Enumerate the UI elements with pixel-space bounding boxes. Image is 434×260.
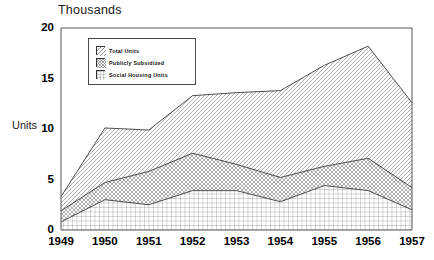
legend-item-total-units[interactable]: Total Units — [96, 45, 139, 56]
legend-item-publicly-subsidized[interactable]: Publicly Subsidized — [96, 57, 164, 68]
legend-item-social-housing-units[interactable]: Social Housing Units — [96, 69, 168, 80]
legend-label-total-units: Total Units — [109, 48, 139, 54]
legend-swatch-publicly-subsidized — [96, 58, 105, 67]
legend-swatch-total-units — [96, 46, 105, 55]
x-tick-1956: 1956 — [355, 236, 381, 248]
legend-label-publicly-subsidized: Publicly Subsidized — [109, 60, 164, 66]
x-tick-1957: 1957 — [399, 236, 425, 248]
legend-label-social-housing-units: Social Housing Units — [109, 72, 168, 78]
x-tick-1950: 1950 — [92, 236, 118, 248]
x-tick-1951: 1951 — [136, 236, 162, 248]
x-tick-1949: 1949 — [48, 236, 74, 248]
plot-area — [0, 0, 434, 260]
x-tick-1953: 1953 — [224, 236, 250, 248]
legend-swatch-social-housing-units — [96, 70, 105, 79]
x-tick-1955: 1955 — [311, 236, 337, 248]
area-chart: Thousands Units 20151050 — [0, 0, 434, 260]
x-tick-1954: 1954 — [268, 236, 294, 248]
chart-legend: Total Units Publicly Subsidized Social H… — [88, 38, 196, 85]
x-tick-1952: 1952 — [180, 236, 206, 248]
x-axis-ticks: 194919501951195219531954195519561957 — [0, 236, 434, 256]
